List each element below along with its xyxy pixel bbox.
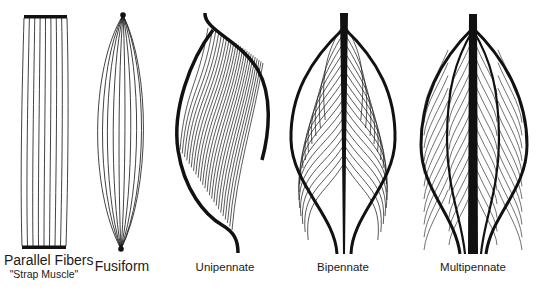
fusiform-illustration [98,12,144,252]
label-parallel-fibers: Parallel Fibers [4,252,90,268]
muscle-fiber-diagram [0,0,537,290]
bipennate-illustration [291,13,395,254]
label-unipennate: Unipennate [185,261,265,273]
label-bipennate: Bipennate [303,261,383,273]
label-multipennate: Multipennate [433,261,513,273]
multipennate-illustration [421,14,527,254]
parallel-fibers-illustration [21,15,68,249]
label-fusiform: Fusiform [92,258,152,274]
sublabel-strap-muscle: "Strap Muscle" [4,268,84,280]
unipennate-illustration [177,13,268,253]
